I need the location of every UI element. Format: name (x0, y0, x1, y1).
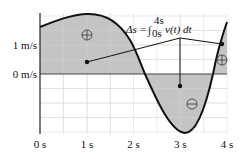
x-tick-2: 2 s (127, 138, 140, 150)
negative-area (145, 74, 213, 133)
velocity-time-diagram: Δs = ∫ 4s 0s v(t) dt 1 m/s 0 m/s 0 s 1 s… (0, 0, 246, 159)
plus-sign-icon-2 (217, 55, 227, 65)
formula-lhs: Δs = (125, 23, 147, 35)
x-tick-4: 4 s (221, 138, 234, 150)
y-tick-1: 1 m/s (13, 39, 37, 51)
y-tick-0: 0 m/s (13, 68, 37, 80)
formula-upper-limit: 4s (154, 14, 164, 26)
leader-dot-1 (85, 60, 89, 64)
plus-sign-icon (82, 30, 92, 40)
leader-dot-3 (220, 42, 224, 46)
x-tick-0: 0 s (34, 138, 47, 150)
formula-integrand: v(t) dt (165, 23, 193, 36)
leader-dot-2 (178, 84, 182, 88)
x-tick-1: 1 s (81, 138, 94, 150)
formula-lower-limit: 0s (152, 27, 162, 39)
x-tick-3: 3 s (174, 138, 187, 150)
